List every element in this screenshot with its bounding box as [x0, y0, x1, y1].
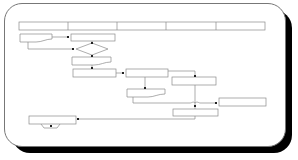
process-node-1	[71, 34, 115, 41]
terminal-node-1	[29, 116, 76, 124]
process-node-5	[219, 98, 266, 106]
decision-node-1	[76, 43, 108, 55]
process-node-3	[126, 69, 168, 77]
process-node-2	[73, 69, 116, 77]
document-node-1	[20, 34, 52, 42]
swimlane-header	[19, 22, 265, 30]
process-node-6	[173, 109, 218, 116]
document-node-2	[72, 57, 111, 65]
process-node-4	[172, 77, 216, 85]
junction-markers	[50, 36, 217, 127]
flowchart	[0, 0, 298, 160]
document-node-3	[127, 89, 165, 97]
